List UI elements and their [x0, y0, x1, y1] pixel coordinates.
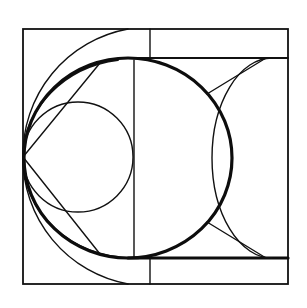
- outer-square: [23, 29, 288, 284]
- geometric-diagram: [0, 0, 307, 308]
- small-circle: [23, 102, 133, 212]
- left-tangent-line-top: [23, 63, 100, 157]
- right-tangent-line-top: [207, 58, 266, 94]
- right-semicircle: [212, 58, 272, 258]
- right-tangent-line-bottom: [207, 222, 266, 258]
- left-tangent-line-bottom: [23, 157, 100, 254]
- large-circle: [24, 58, 232, 258]
